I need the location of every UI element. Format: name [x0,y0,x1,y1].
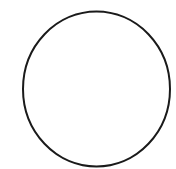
diagram-canvas [0,0,176,169]
circle-outline [23,12,170,167]
diagram-svg [0,0,176,169]
